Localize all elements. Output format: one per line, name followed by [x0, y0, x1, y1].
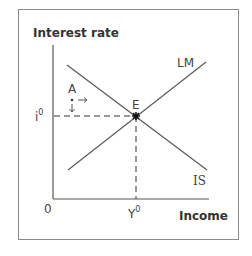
- i0-label: i0: [35, 111, 43, 123]
- arrow-right-icon: [78, 98, 87, 103]
- y-axis-label: Interest rate: [33, 27, 119, 39]
- equilibrium-label: E: [132, 99, 140, 111]
- x-axis-label: Income: [179, 210, 228, 222]
- y0-sup: 0: [135, 205, 140, 214]
- point-a-label: A: [68, 83, 76, 95]
- origin-label: 0: [44, 203, 52, 215]
- equilibrium-marker: [132, 112, 140, 120]
- is-label: IS: [193, 175, 206, 187]
- point-a-marker: [71, 99, 74, 102]
- i0-sup: 0: [38, 108, 43, 117]
- lm-label: LM: [177, 57, 194, 69]
- arrow-down-icon: [70, 104, 75, 112]
- y0-label: Y0: [128, 208, 140, 220]
